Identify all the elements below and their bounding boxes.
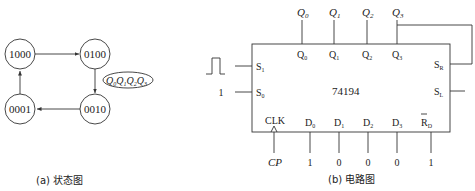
pin-clk: CLK bbox=[265, 115, 286, 126]
caption-a: (a) 状态图 bbox=[36, 174, 83, 186]
pin-d2: D2 bbox=[363, 117, 373, 129]
pin-q3: Q3 bbox=[392, 49, 402, 61]
cp-input-label: CP bbox=[268, 156, 282, 168]
pin-sl: SL bbox=[434, 86, 444, 98]
chip-name: 74194 bbox=[332, 85, 360, 97]
pulse-icon bbox=[206, 58, 225, 74]
d2-input-value: 0 bbox=[366, 157, 371, 168]
pin-sr: SR bbox=[434, 59, 444, 71]
state-label: 0100 bbox=[84, 48, 107, 60]
pin-s1: S1 bbox=[256, 61, 265, 73]
pin-q0: Q0 bbox=[297, 49, 307, 61]
output-q1: Q1 bbox=[329, 6, 340, 20]
s0-input-value: 1 bbox=[219, 87, 224, 98]
pin-q1: Q1 bbox=[329, 49, 339, 61]
pin-rd: RD bbox=[421, 117, 433, 129]
output-q3: Q3 bbox=[392, 6, 404, 20]
clock-edge-icon bbox=[271, 126, 277, 132]
figure: 1000 0100 0010 0001 Q0Q1Q2Q3 (a) 状态图 bbox=[0, 0, 475, 191]
state-label: 0010 bbox=[84, 103, 107, 115]
output-q2: Q2 bbox=[362, 6, 374, 20]
d1-input-value: 0 bbox=[337, 157, 342, 168]
caption-b: (b) 电路图 bbox=[328, 173, 375, 185]
pin-d0: D0 bbox=[305, 117, 315, 129]
state-label: 1000 bbox=[9, 48, 32, 60]
state-label: 0001 bbox=[9, 103, 31, 115]
pin-d3: D3 bbox=[392, 117, 402, 129]
d0-input-value: 1 bbox=[308, 157, 313, 168]
pin-d1: D1 bbox=[334, 117, 344, 129]
output-q0: Q0 bbox=[297, 6, 309, 20]
state-legend-text: Q0Q1Q2Q3 bbox=[106, 75, 147, 87]
pin-q2: Q2 bbox=[362, 49, 372, 61]
d3-input-value: 0 bbox=[395, 157, 400, 168]
pin-s0: S0 bbox=[256, 87, 265, 99]
rd-input-value: 1 bbox=[429, 157, 434, 168]
